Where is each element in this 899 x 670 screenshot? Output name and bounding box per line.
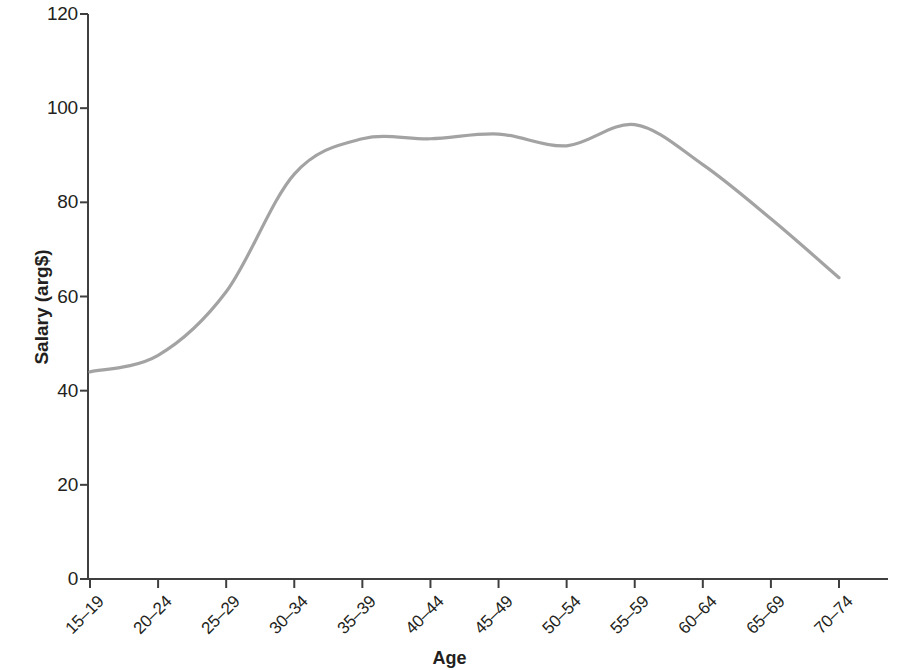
y-tick-marks [80,14,88,579]
axes [88,14,888,579]
salary-data-line [90,124,839,371]
x-tick-marks [90,579,839,588]
salary-by-age-line-chart: Salary (arg$) Age 020406080100120 15–192… [0,0,899,670]
plot-area [0,0,899,670]
